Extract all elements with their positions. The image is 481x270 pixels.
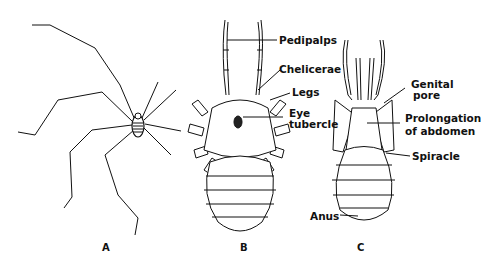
- label-chelicerae: Chelicerae: [279, 64, 341, 75]
- harvestman-figure-a: [18, 25, 181, 235]
- ventral-figure-c: [332, 40, 410, 220]
- caption-c: C: [357, 242, 364, 253]
- label-prolongation: Prolongation: [405, 113, 481, 124]
- label-spiracle: Spiracle: [412, 151, 460, 162]
- dorsal-figure-b: [188, 20, 290, 231]
- label-anus: Anus: [310, 211, 339, 222]
- label-pedipalps: Pedipalps: [279, 35, 337, 46]
- label-of-abdomen: of abdomen: [405, 126, 475, 137]
- caption-a: A: [102, 242, 110, 253]
- label-pore: pore: [413, 90, 440, 101]
- label-tubercle: tubercle: [289, 119, 338, 130]
- caption-b: B: [240, 242, 248, 253]
- label-legs: Legs: [292, 87, 320, 98]
